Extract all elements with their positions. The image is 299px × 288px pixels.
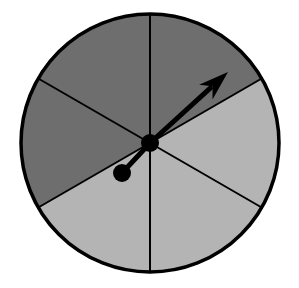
spinner-canvas — [0, 0, 299, 288]
spinner-center-hub[interactable] — [141, 134, 159, 152]
spinner-figure — [0, 0, 299, 288]
spinner-counterweight-dot — [113, 164, 131, 182]
